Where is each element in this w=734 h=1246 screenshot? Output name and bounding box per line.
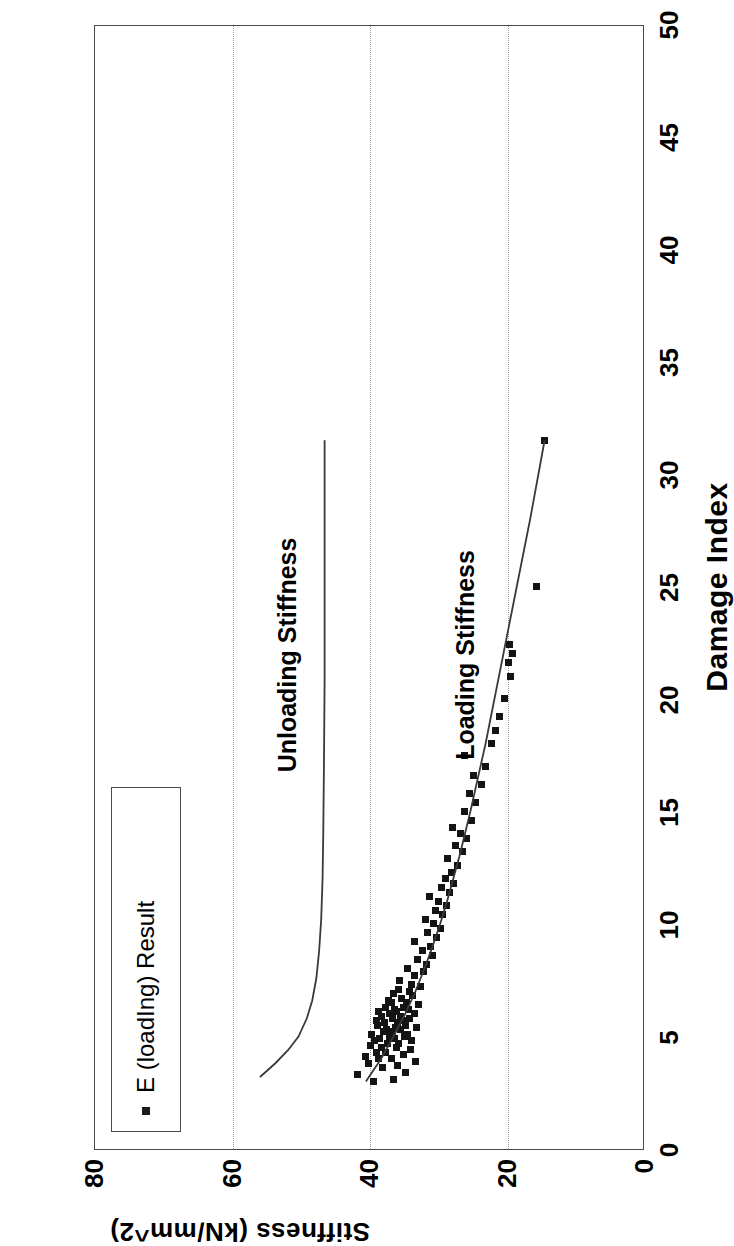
x-tick-label: 45	[654, 123, 685, 152]
annotation-unloading-stiffness: Unloading Stiffness	[272, 538, 301, 773]
y-tick-label: 20	[491, 1159, 522, 1188]
x-tick-label: 5	[654, 1030, 685, 1044]
y-axis-title: Stiffness (kN/mm^2)	[110, 1216, 370, 1246]
curve-loading-stiffness	[366, 440, 545, 1081]
x-axis-title: Damage Index	[700, 482, 734, 691]
x-tick-label: 30	[654, 461, 685, 490]
y-tick-label: 40	[354, 1159, 385, 1188]
x-tick-label: 35	[654, 348, 685, 377]
x-tick-label: 0	[654, 1143, 685, 1157]
y-tick-label: 80	[79, 1159, 110, 1188]
x-tick-label: 50	[654, 11, 685, 40]
square-marker-icon	[142, 1107, 150, 1115]
legend: E (loadIng) Result	[111, 787, 181, 1132]
y-tick-label: 60	[216, 1159, 247, 1188]
x-tick-label: 20	[654, 686, 685, 715]
annotation-loading-stiffness: Loading Stiffness	[451, 550, 480, 760]
y-tick-label: 0	[629, 1159, 660, 1173]
legend-label: E (loadIng) Result	[132, 901, 160, 1093]
x-tick-label: 15	[654, 798, 685, 827]
x-tick-label: 40	[654, 236, 685, 265]
x-tick-label: 25	[654, 573, 685, 602]
x-tick-label: 10	[654, 911, 685, 940]
